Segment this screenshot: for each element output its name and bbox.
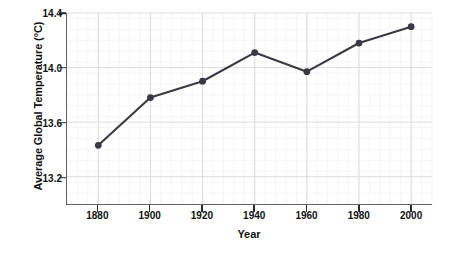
y-axis-tick-labels: 13.2 13.6 14.0 14.4: [24, 0, 62, 253]
data-point-marker: [251, 49, 258, 56]
x-tick-label: 1980: [334, 210, 384, 221]
y-tick-label: 14.0: [28, 62, 62, 73]
x-tick-label: 1900: [125, 210, 175, 221]
x-tick-label: 1960: [282, 210, 332, 221]
y-tick-mark: [59, 122, 66, 124]
data-point-marker: [408, 23, 415, 30]
y-tick-label: 13.6: [28, 117, 62, 128]
data-point-marker: [199, 78, 206, 85]
y-tick-mark: [59, 177, 66, 179]
x-tick-label: 2000: [386, 210, 436, 221]
y-tick-mark: [59, 12, 66, 14]
x-axis-title: Year: [66, 228, 432, 240]
y-tick-label: 14.4: [28, 8, 62, 19]
series-polyline: [98, 27, 411, 146]
x-tick-label: 1920: [177, 210, 227, 221]
y-tick-label: 13.2: [28, 172, 62, 183]
x-tick-label: 1880: [72, 210, 122, 221]
plot-area: [66, 13, 432, 205]
data-point-marker: [303, 68, 310, 75]
y-tick-mark: [59, 67, 66, 69]
data-point-marker: [95, 142, 102, 149]
data-point-marker: [356, 40, 363, 47]
data-point-marker: [147, 94, 154, 101]
x-tick-label: 1940: [229, 210, 279, 221]
data-series-line: [67, 13, 432, 204]
line-chart: Average Global Temperature (°C) 13.2 13.…: [0, 0, 454, 253]
